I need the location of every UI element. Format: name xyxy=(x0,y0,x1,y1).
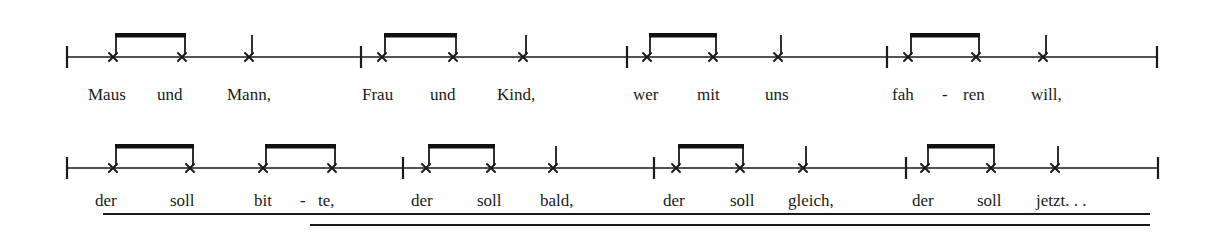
beam xyxy=(927,144,995,149)
lyric-syllable: gleich, xyxy=(788,191,834,210)
lyric-syllable: und xyxy=(430,85,456,104)
lyric-syllable: wer xyxy=(633,85,659,104)
staff-system-2: dersollbit-te,dersollbald,dersollgleich,… xyxy=(67,144,1158,210)
beam xyxy=(384,33,457,38)
beam xyxy=(115,33,186,38)
lyric-syllable: - xyxy=(942,85,948,104)
lyric-syllable: Kind, xyxy=(497,85,535,104)
beam xyxy=(265,144,336,149)
lyric-syllable: mit xyxy=(697,85,720,104)
rhythm-score: MausundMann,FrauundKind,wermitunsfah-ren… xyxy=(0,0,1219,238)
lyric-syllable: - xyxy=(300,191,306,210)
beam xyxy=(428,144,495,149)
lyric-syllable: uns xyxy=(765,85,789,104)
lyric-syllable: bald, xyxy=(540,191,574,210)
lyric-syllable: soll xyxy=(730,191,755,210)
lyric-syllable: der xyxy=(912,191,934,210)
lyric-syllable: soll xyxy=(477,191,502,210)
lyric-syllable: te, xyxy=(318,191,335,210)
beam xyxy=(115,144,194,149)
beam xyxy=(649,33,717,38)
lyric-syllable: der xyxy=(95,191,117,210)
lyric-syllable: will, xyxy=(1031,85,1062,104)
lyric-syllable: ren xyxy=(963,85,985,104)
lyric-syllable: jetzt. . . xyxy=(1035,191,1087,210)
score-systems: MausundMann,FrauundKind,wermitunsfah-ren… xyxy=(67,33,1158,210)
lyric-syllable: der xyxy=(411,191,433,210)
lyric-syllable: und xyxy=(157,85,183,104)
beam xyxy=(910,33,980,38)
lyric-syllable: der xyxy=(663,191,685,210)
lyric-syllable: Maus xyxy=(88,85,126,104)
staff-system-1: MausundMann,FrauundKind,wermitunsfah-ren… xyxy=(67,33,1157,104)
lyric-syllable: soll xyxy=(977,191,1002,210)
beam xyxy=(678,144,744,149)
lyric-syllable: bit xyxy=(254,191,272,210)
lyric-syllable: Mann, xyxy=(227,85,271,104)
lyric-syllable: Frau xyxy=(362,85,394,104)
lyric-syllable: fah xyxy=(892,85,914,104)
double-underline xyxy=(103,214,1150,225)
lyric-syllable: soll xyxy=(170,191,195,210)
